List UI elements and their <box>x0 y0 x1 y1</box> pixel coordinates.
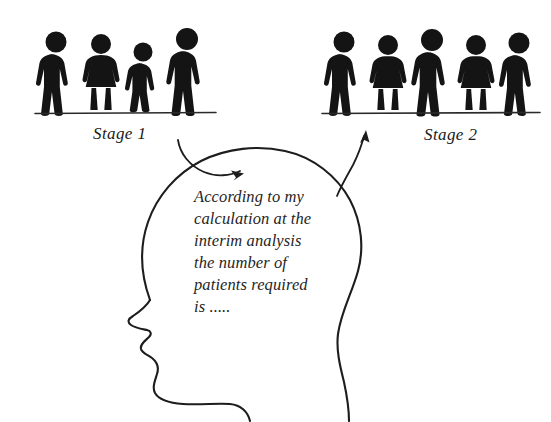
person-man <box>166 28 199 116</box>
arrow-head-to-stage2 <box>337 130 370 196</box>
thought-line: patients required <box>193 275 308 294</box>
person-man <box>411 29 444 117</box>
person-woman <box>369 35 406 110</box>
thought-line: calculation at the <box>194 209 311 228</box>
thought-line: According to my <box>193 187 305 206</box>
stage-2-group: Stage 2 <box>322 29 540 144</box>
person-man <box>324 32 356 116</box>
person-man <box>499 33 531 116</box>
thought-text-block: According to my calculation at the inter… <box>193 187 311 316</box>
stage-2-baseline <box>322 113 540 114</box>
thought-line: interim analysis <box>194 231 301 250</box>
thought-line: the number of <box>194 253 289 272</box>
figure-root: Stage 1 <box>0 0 551 422</box>
stage-2-label: Stage 2 <box>424 125 477 144</box>
stage-1-group: Stage 1 <box>35 28 216 143</box>
stage-2-people <box>324 29 531 117</box>
thought-line: is ..... <box>194 297 231 316</box>
person-man <box>36 32 68 116</box>
person-woman <box>457 35 494 110</box>
person-woman <box>82 34 119 110</box>
person-man-short <box>125 43 154 113</box>
two-stage-trial-diagram: Stage 1 <box>0 0 551 422</box>
stage-1-label: Stage 1 <box>93 124 146 143</box>
stage-1-people <box>36 28 200 116</box>
stage-1-baseline <box>35 113 216 114</box>
arrow-stage1-to-head <box>178 140 244 181</box>
